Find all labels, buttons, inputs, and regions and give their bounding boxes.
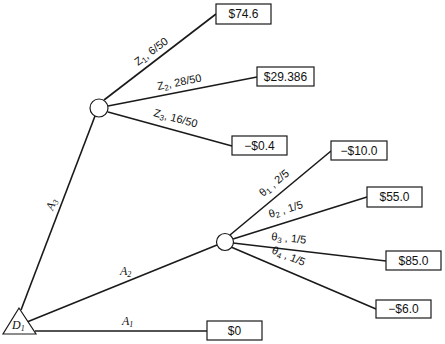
payoff-theta4: −$6.0 bbox=[376, 300, 431, 318]
branch-label-theta1: θ1 , 2/5 bbox=[257, 167, 293, 200]
payoff-z3-value: −$0.4 bbox=[244, 139, 275, 153]
payoff-z2-value: $29.386 bbox=[264, 70, 308, 84]
chance-node-lower bbox=[217, 234, 234, 251]
chance-node-upper bbox=[90, 99, 108, 117]
branch-label-z2: Z2, 28/50 bbox=[156, 72, 203, 94]
payoff-z2: $29.386 bbox=[257, 67, 314, 86]
payoff-theta3-value: $85.0 bbox=[398, 254, 428, 268]
edge-a3 bbox=[21, 116, 95, 310]
payoff-theta4-value: −$6.0 bbox=[388, 302, 419, 316]
payoff-theta2-value: $55.0 bbox=[379, 190, 409, 204]
payoff-z1-value: $74.6 bbox=[228, 7, 258, 21]
payoff-theta3: $85.0 bbox=[386, 251, 441, 270]
action-label-a2: A2 bbox=[119, 264, 131, 279]
edge-theta1 bbox=[230, 151, 331, 235]
branch-label-z3: Z3, 16/50 bbox=[152, 106, 199, 131]
payoff-a1: $0 bbox=[207, 321, 262, 340]
decision-tree: D1 $74.6 $29.386 −$0.4 −$10.0 $55.0 $85.… bbox=[0, 0, 445, 344]
payoff-a1-value: $0 bbox=[228, 324, 242, 338]
payoff-theta1: −$10.0 bbox=[331, 141, 387, 160]
action-label-a1: A1 bbox=[121, 314, 133, 329]
edge-a2 bbox=[27, 245, 217, 322]
payoff-theta1-value: −$10.0 bbox=[340, 144, 377, 158]
payoff-z3: −$0.4 bbox=[232, 136, 287, 155]
payoff-theta2: $55.0 bbox=[367, 187, 422, 207]
payoff-z1: $74.6 bbox=[216, 4, 271, 24]
